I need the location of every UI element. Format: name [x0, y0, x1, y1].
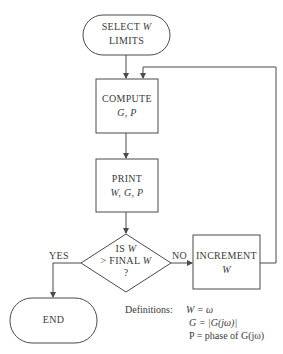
compute-label: COMPUTE: [96, 92, 158, 106]
arrow-decision-to-end: [53, 263, 81, 297]
definition-rhs: = phase of G(jω): [197, 330, 264, 341]
compute-box: COMPUTE G, P: [96, 92, 158, 120]
definition-lhs: P: [189, 330, 194, 341]
decision-var-1: W: [128, 243, 137, 254]
start-label-line2: LIMITS: [83, 34, 170, 48]
compute-vars: G, P: [96, 106, 158, 120]
print-vars: W, G, P: [96, 186, 158, 200]
definition-lhs: W: [186, 304, 194, 315]
definitions-title: Definitions:: [125, 303, 173, 316]
yes-edge-label: YES: [49, 250, 69, 261]
print-label: PRINT: [96, 172, 158, 186]
definition-rhs: = |G(jω)|: [199, 317, 237, 328]
end-terminal: END: [10, 313, 97, 327]
definition-rhs: = ω: [197, 304, 213, 315]
definition-lhs: G: [189, 317, 196, 328]
decision-question-mark: ?: [81, 267, 171, 279]
definition-row-p: P = phase of G(jω): [186, 329, 283, 342]
definition-row-g: G = |G(jω)|: [186, 316, 283, 329]
arrow-increment-feedback: [143, 67, 276, 263]
start-terminal: SELECT W LIMITS: [83, 20, 170, 48]
decision-var-2: W: [143, 255, 152, 266]
no-edge-label: NO: [172, 250, 187, 261]
start-label-var: W: [143, 21, 152, 32]
definition-row-w: W = ω: [186, 303, 283, 316]
end-label: END: [10, 313, 97, 327]
decision-diamond: IS W > FINAL W ?: [81, 243, 171, 279]
decision-text-1: IS: [116, 243, 128, 254]
start-label-text: SELECT: [102, 21, 143, 32]
decision-text-2: > FINAL: [101, 255, 143, 266]
print-box: PRINT W, G, P: [96, 172, 158, 200]
increment-box: INCREMENT W: [193, 249, 260, 277]
increment-label: INCREMENT: [193, 249, 260, 263]
increment-var: W: [193, 263, 260, 277]
